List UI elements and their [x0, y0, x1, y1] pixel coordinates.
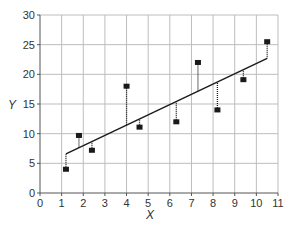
x-tick-label: 4 — [123, 197, 129, 209]
y-tick-label: 15 — [23, 98, 35, 110]
y-axis-label: Y — [8, 98, 17, 112]
x-tick-label: 2 — [80, 197, 86, 209]
y-tick-label: 25 — [23, 39, 35, 51]
y-tick-labels: 051015202530 — [23, 9, 35, 199]
x-tick-label: 9 — [232, 197, 238, 209]
square-marker-icon — [173, 119, 179, 124]
scatter-chart: 01234567891011 051015202530 X Y — [0, 0, 290, 228]
square-marker-icon — [137, 125, 143, 130]
x-tick-label: 10 — [250, 197, 262, 209]
y-tick-label: 5 — [29, 157, 35, 169]
axes — [37, 15, 278, 196]
square-marker-icon — [89, 148, 95, 153]
square-marker-icon — [195, 60, 201, 65]
y-tick-label: 0 — [29, 187, 35, 199]
x-tick-label: 8 — [210, 197, 216, 209]
square-marker-icon — [76, 133, 82, 138]
grid-lines — [40, 15, 278, 193]
square-marker-icon — [63, 167, 69, 172]
x-tick-label: 11 — [272, 197, 283, 209]
y-tick-label: 10 — [23, 128, 35, 140]
x-tick-label: 7 — [188, 197, 194, 209]
x-tick-label: 3 — [102, 197, 108, 209]
x-tick-label: 6 — [167, 197, 173, 209]
x-tick-label: 0 — [37, 197, 43, 209]
y-tick-label: 30 — [23, 9, 35, 21]
x-tick-labels: 01234567891011 — [37, 197, 284, 209]
square-marker-icon — [124, 84, 130, 89]
y-tick-label: 20 — [23, 68, 35, 80]
x-tick-label: 1 — [59, 197, 65, 209]
square-marker-icon — [240, 77, 246, 82]
regression-line — [66, 58, 267, 154]
square-marker-icon — [264, 39, 270, 44]
square-marker-icon — [214, 107, 220, 112]
regression-line-segment — [66, 58, 267, 154]
x-axis-label: X — [145, 208, 155, 222]
